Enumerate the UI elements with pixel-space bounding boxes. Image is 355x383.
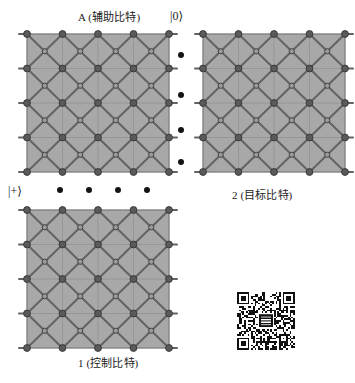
ellipsis-dot — [178, 127, 184, 133]
ancilla-lattice — [18, 25, 178, 181]
ket-plus-label: |+⟩ — [8, 185, 22, 197]
ellipsis-dot — [178, 52, 184, 58]
ket-zero-label: |0⟩ — [170, 10, 183, 22]
ellipsis-dot — [115, 187, 121, 193]
ellipsis-dot — [144, 187, 150, 193]
ancilla-label: A (辅助比特) — [78, 12, 140, 23]
ellipsis-dot — [57, 187, 63, 193]
quantum-lattice-figure: A (辅助比特) 2 (目标比特) 1 (控制比特) |0⟩ |+⟩ — [0, 0, 355, 383]
target-label: 2 (目标比特) — [232, 190, 292, 201]
target-lattice — [194, 25, 354, 181]
ancilla-text: (辅助比特) — [85, 11, 140, 23]
ellipsis-dot — [178, 159, 184, 165]
control-label: 1 (控制比特) — [78, 358, 138, 369]
ellipsis-dot — [86, 187, 92, 193]
control-lattice — [18, 201, 178, 357]
ellipsis-dot — [178, 92, 184, 98]
qr-code[interactable] — [237, 292, 295, 350]
